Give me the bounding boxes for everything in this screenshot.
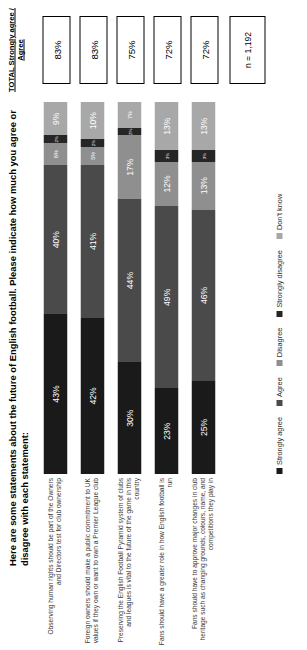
- legend-item-strongly_disagree[interactable]: Strongly disagree: [274, 250, 283, 317]
- bar-segment-disagree: 13%: [191, 162, 215, 210]
- bar-segment-dont_know: 7%: [117, 102, 141, 128]
- bar-segment-strongly_disagree: 3%: [154, 150, 178, 161]
- chart-row: Fans should have a greater role in how E…: [151, 0, 181, 650]
- chart-legend: Strongly agreeAgreeDisagreeStrongly disa…: [274, 4, 283, 474]
- legend-item-agree[interactable]: Agree: [274, 377, 283, 406]
- bar-segment-agree: 49%: [154, 206, 178, 388]
- total-agree-box: 72%: [153, 16, 181, 84]
- legend-label: Strongly disagree: [274, 250, 283, 308]
- legend-swatch-icon: [276, 311, 282, 317]
- total-agree-box: 83%: [42, 16, 70, 84]
- bar-segment-disagree: 5%: [80, 147, 104, 166]
- legend-item-strongly_agree[interactable]: Strongly agree: [274, 417, 283, 474]
- bar-segment-dont_know: 10%: [80, 102, 104, 139]
- total-agree-box: 75%: [116, 16, 144, 84]
- legend-item-disagree[interactable]: Disagree: [274, 328, 283, 367]
- legend-label: Agree: [274, 377, 283, 397]
- chart-title: Here are some statements about the futur…: [6, 96, 31, 566]
- bar-segment-agree: 44%: [117, 199, 141, 363]
- stacked-bar: 43%40%6%2%9%: [43, 102, 67, 474]
- stacked-bar: 42%41%5%2%10%: [80, 102, 104, 474]
- sample-size-box: n = 1,192: [229, 16, 265, 84]
- bar-segment-agree: 41%: [80, 165, 104, 318]
- stacked-bar: 30%44%17%2%7%: [117, 102, 141, 474]
- total-agree-box: 72%: [190, 16, 218, 84]
- legend-swatch-icon: [276, 468, 282, 474]
- category-label: Observing human rights should be part of…: [47, 478, 63, 646]
- stacked-bar: 25%46%13%3%13%: [191, 102, 215, 474]
- legend-label: Don't know: [274, 194, 283, 230]
- stacked-bar: 23%49%12%3%13%: [154, 102, 178, 474]
- bar-segment-strongly_disagree: 3%: [191, 150, 215, 161]
- legend-label: Disagree: [274, 328, 283, 358]
- chart-row: Preserving the English Football Pyramid …: [114, 0, 144, 650]
- category-label: Foreign owners should make a public comm…: [84, 478, 100, 646]
- chart-row: Fans should have to approve major change…: [188, 0, 218, 650]
- chart-poster: Here are some statements about the futur…: [0, 0, 307, 650]
- total-column-header: TOTAL Strongly agree / Agree: [6, 6, 24, 94]
- bar-segment-strongly_disagree: 2%: [80, 139, 104, 146]
- plot-area: Observing human rights should be part of…: [40, 0, 262, 650]
- bar-segment-agree: 46%: [191, 210, 215, 381]
- bar-segment-strongly_agree: 23%: [154, 388, 178, 474]
- chart-row: Observing human rights should be part of…: [40, 0, 70, 650]
- category-label: Preserving the English Football Pyramid …: [117, 478, 142, 646]
- bar-segment-dont_know: 13%: [191, 102, 215, 150]
- bar-segment-strongly_agree: 25%: [191, 381, 215, 474]
- bar-segment-strongly_agree: 30%: [117, 362, 141, 474]
- bar-segment-dont_know: 13%: [154, 102, 178, 150]
- legend-swatch-icon: [276, 233, 282, 239]
- legend-item-dont_know[interactable]: Don't know: [274, 194, 283, 239]
- category-label: Fans should have to approve major change…: [191, 478, 216, 646]
- bar-segment-strongly_disagree: 2%: [43, 136, 67, 143]
- legend-swatch-icon: [276, 360, 282, 366]
- bar-segment-disagree: 17%: [117, 135, 141, 198]
- bar-segment-disagree: 6%: [43, 143, 67, 165]
- chart-row: Foreign owners should make a public comm…: [77, 0, 107, 650]
- bar-segment-strongly_agree: 42%: [80, 318, 104, 474]
- legend-swatch-icon: [276, 400, 282, 406]
- bar-segment-disagree: 12%: [154, 162, 178, 207]
- legend-label: Strongly agree: [274, 417, 283, 465]
- rotated-chart-canvas: Here are some statements about the futur…: [0, 0, 307, 650]
- total-agree-box: 83%: [79, 16, 107, 84]
- bar-segment-dont_know: 9%: [43, 102, 67, 135]
- bar-segment-strongly_agree: 43%: [43, 314, 67, 474]
- category-label: Fans should have a greater role in how E…: [158, 478, 174, 646]
- bar-segment-strongly_disagree: 2%: [117, 128, 141, 135]
- bar-segment-agree: 40%: [43, 165, 67, 314]
